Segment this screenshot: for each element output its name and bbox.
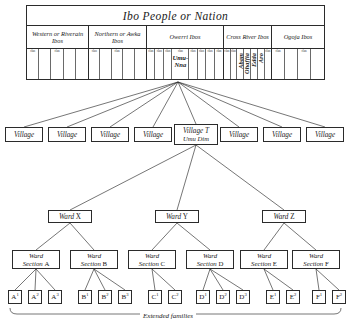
clan-tag: clan bbox=[216, 50, 221, 53]
extended-families-caption: Extended families bbox=[140, 312, 196, 320]
extended-family-label: A1 bbox=[11, 292, 18, 301]
clan-tag: clan bbox=[165, 50, 170, 53]
clan-tag: clan bbox=[224, 50, 229, 53]
extended-family-box-a1[interactable]: A1 bbox=[8, 290, 22, 304]
extended-family-box-b3[interactable]: B3 bbox=[118, 290, 132, 304]
extended-family-label: D1 bbox=[199, 292, 206, 301]
extended-family-box-b2[interactable]: B2 bbox=[98, 290, 112, 304]
ward-section-line2: Section E bbox=[251, 260, 277, 268]
clan-tag: clan bbox=[231, 50, 236, 53]
village-to-ward-0 bbox=[70, 145, 196, 210]
ward-section-line1: Ward bbox=[309, 252, 323, 260]
clan-to-village-3 bbox=[153, 82, 178, 127]
ward-box-z[interactable]: Ward Z bbox=[262, 210, 306, 223]
clan-cell-2-2: clan bbox=[164, 49, 172, 79]
clan-cell-2-5: clan bbox=[198, 49, 206, 79]
clan-tag: clan bbox=[207, 50, 212, 53]
village-label: Village T bbox=[183, 127, 209, 135]
section-to-family-10 bbox=[210, 269, 243, 290]
extended-family-box-a2[interactable]: A2 bbox=[28, 290, 42, 304]
clan-to-village-2 bbox=[110, 82, 178, 127]
ward-section-box-b[interactable]: WardSection B bbox=[70, 250, 118, 269]
ward-section-box-a[interactable]: WardSection A bbox=[12, 250, 60, 269]
ward-section-box-e[interactable]: WardSection E bbox=[240, 250, 288, 269]
group-header-4: Ogoja Ibos bbox=[272, 26, 324, 48]
section-to-family-2 bbox=[36, 269, 55, 290]
group-header-1: Northern or Awka Ibos bbox=[89, 26, 147, 48]
extended-family-box-f2[interactable]: F2 bbox=[332, 290, 346, 304]
section-to-family-5 bbox=[94, 269, 125, 290]
village-label: Village bbox=[143, 131, 163, 139]
village-box-6[interactable]: Village bbox=[263, 127, 301, 142]
village-box-2[interactable]: Village bbox=[91, 127, 129, 142]
clan-to-village-0 bbox=[24, 82, 178, 127]
village-label: Village bbox=[315, 131, 335, 139]
extended-family-box-e1[interactable]: E1 bbox=[266, 290, 280, 304]
ward-box-x[interactable]: Ward X bbox=[48, 210, 92, 223]
clan-tag: clan bbox=[157, 50, 162, 53]
extended-family-box-d1[interactable]: D1 bbox=[196, 290, 210, 304]
clan-to-village-7 bbox=[178, 82, 325, 127]
clan-cell-1-3 bbox=[123, 49, 134, 79]
ward-section-box-c[interactable]: WardSection C bbox=[128, 250, 176, 269]
nation-header-row: Ibo People or Nation bbox=[27, 6, 324, 26]
clan-cell-2-3: clanUmu-Nna bbox=[172, 49, 189, 79]
clan-cell-4-3 bbox=[311, 49, 324, 79]
clan-name-umu-nna: Umu-Nna bbox=[172, 54, 188, 68]
clan-cell-2-4: clan bbox=[189, 49, 197, 79]
extended-family-label: C1 bbox=[152, 292, 159, 301]
extended-family-box-f1[interactable]: F1 bbox=[312, 290, 326, 304]
extended-family-label: A2 bbox=[31, 292, 38, 301]
extended-family-box-e2[interactable]: E2 bbox=[286, 290, 300, 304]
section-to-family-9 bbox=[210, 269, 223, 290]
village-box-0[interactable]: Village bbox=[5, 127, 43, 142]
extended-family-box-c1[interactable]: C1 bbox=[148, 290, 162, 304]
village-box-1[interactable]: Village bbox=[48, 127, 86, 142]
clan-group-2: clanclanclanclanUmu-Nnaclanclanclanclan bbox=[147, 49, 224, 79]
ward-section-box-d[interactable]: WardSection D bbox=[186, 250, 234, 269]
village-box-7[interactable]: Village bbox=[306, 127, 344, 142]
section-to-family-1 bbox=[35, 269, 36, 290]
extended-family-label: E1 bbox=[270, 292, 277, 301]
extended-family-box-d3[interactable]: D3 bbox=[236, 290, 250, 304]
section-to-family-12 bbox=[264, 269, 293, 290]
clan-to-village-5 bbox=[178, 82, 239, 127]
clan-cell-2-0: clan bbox=[147, 49, 155, 79]
clan-cell-1-2: clan bbox=[112, 49, 123, 79]
village-to-ward-1 bbox=[177, 145, 196, 210]
ward-to-section-3 bbox=[177, 223, 210, 250]
clan-tag: clan bbox=[115, 50, 120, 53]
clan-cell-0-3 bbox=[64, 49, 76, 79]
clan-tag: clan bbox=[55, 50, 60, 53]
clan-tag: clan bbox=[199, 50, 204, 53]
extended-family-label: D3 bbox=[239, 292, 246, 301]
ward-box-y[interactable]: Ward Y bbox=[155, 210, 199, 223]
clan-cell-1-4 bbox=[135, 49, 146, 79]
village-label: Village bbox=[229, 131, 249, 139]
ward-section-line1: Ward bbox=[203, 252, 217, 260]
clan-cell-0-2: clan bbox=[51, 49, 63, 79]
extended-family-box-c2[interactable]: C2 bbox=[168, 290, 182, 304]
extended-family-box-d2[interactable]: D2 bbox=[216, 290, 230, 304]
clan-to-village-1 bbox=[67, 82, 178, 127]
village-box-4[interactable]: Village TUmu Dim bbox=[174, 124, 218, 145]
ward-label: Ward Y bbox=[166, 213, 188, 221]
clan-to-village-4 bbox=[178, 82, 196, 124]
ward-label: Ward Z bbox=[273, 213, 294, 221]
village-box-3[interactable]: Village bbox=[134, 127, 172, 142]
ward-section-line1: Ward bbox=[87, 252, 101, 260]
village-label: Village bbox=[100, 131, 120, 139]
clan-row: clanclanclanclanclanclanclanclanUmu-Nnac… bbox=[27, 49, 324, 79]
clan-cell-2-6: clan bbox=[206, 49, 214, 79]
clan-to-village-6 bbox=[178, 82, 282, 127]
village-box-5[interactable]: Village bbox=[220, 127, 258, 142]
extended-family-box-b1[interactable]: B1 bbox=[78, 290, 92, 304]
ward-section-line2: Section D bbox=[197, 260, 224, 268]
ward-section-box-f[interactable]: WardSection F bbox=[292, 250, 340, 269]
village-label: Village bbox=[57, 131, 77, 139]
extended-family-box-a3[interactable]: A3 bbox=[48, 290, 62, 304]
clan-cell-4-2: clan bbox=[298, 49, 311, 79]
clan-name-aro: Aro bbox=[257, 53, 264, 63]
ward-label: Ward X bbox=[59, 213, 81, 221]
extended-family-label: B1 bbox=[82, 292, 89, 301]
